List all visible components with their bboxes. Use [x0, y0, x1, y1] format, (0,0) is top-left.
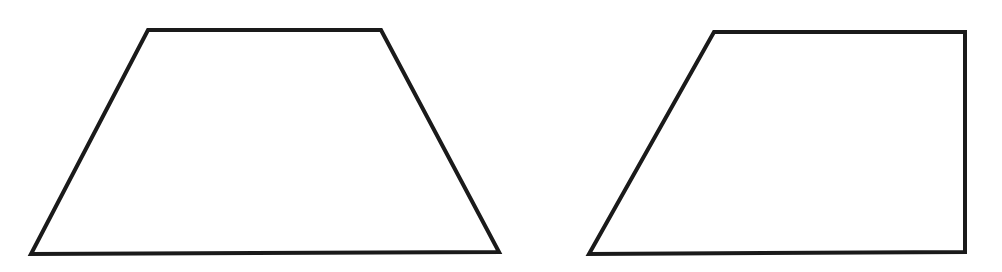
- isosceles-trapezoid: [31, 30, 499, 254]
- diagram-canvas: [0, 0, 1002, 272]
- right-trapezoid: [589, 32, 965, 254]
- trapezoids-figure: [0, 0, 1002, 272]
